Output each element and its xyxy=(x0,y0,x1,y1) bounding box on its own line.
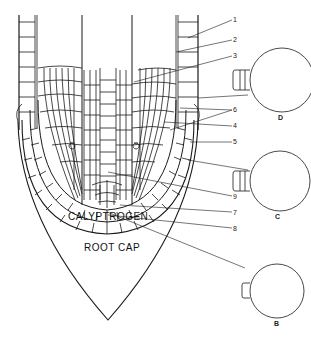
stele xyxy=(82,15,132,205)
label-4: 4 xyxy=(233,122,237,129)
label-1: 1 xyxy=(233,16,237,23)
label-6: 6 xyxy=(233,106,237,113)
calyptrogen-label: CALYPTROGEN xyxy=(68,212,148,222)
epidermis xyxy=(19,15,198,130)
inset-label-c: C xyxy=(275,213,280,220)
root-cap-label: ROOT CAP xyxy=(84,243,140,253)
inset-label-d: D xyxy=(278,114,283,121)
label-3: 3 xyxy=(233,52,237,59)
label-7: 7 xyxy=(233,209,237,216)
initials xyxy=(92,180,122,208)
inset-label-b: B xyxy=(274,320,279,327)
label-2: 2 xyxy=(233,36,237,43)
inset-c xyxy=(233,151,310,211)
label-8: 8 xyxy=(233,225,237,232)
cortex xyxy=(38,66,176,200)
label-5: 5 xyxy=(233,138,237,145)
root-tip-diagram xyxy=(0,0,311,337)
label-9: 9 xyxy=(233,193,237,200)
inset-d xyxy=(233,48,311,112)
dividing-cell-right xyxy=(133,143,139,149)
inset-b xyxy=(242,264,304,318)
